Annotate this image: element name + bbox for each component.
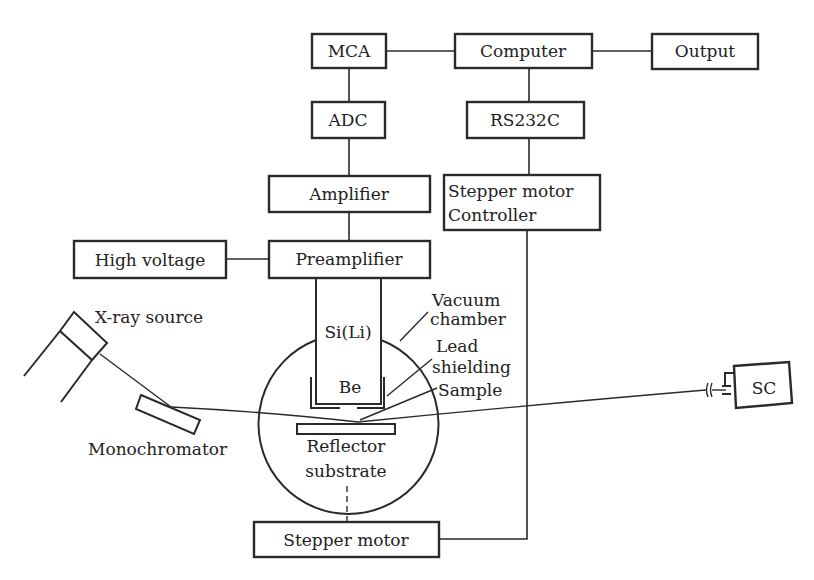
block-stepper-motor: Stepper motor xyxy=(254,522,439,557)
lead-shielding-label-line2: shielding xyxy=(432,357,511,377)
block-output: Output xyxy=(652,34,758,69)
vacuum-chamber-leader xyxy=(400,312,428,341)
high-voltage-label: High voltage xyxy=(95,250,206,270)
beam-source-to-mono xyxy=(100,354,171,407)
block-stepper-motor-controller: Stepper motor Controller xyxy=(444,175,600,230)
xray-tube-leg-1 xyxy=(24,331,60,376)
monochromator-label: Monochromator xyxy=(88,439,228,459)
block-computer: Computer xyxy=(455,34,592,68)
amplifier-label: Amplifier xyxy=(308,184,390,204)
reflector-label-line2: substrate xyxy=(305,461,386,481)
xray-tube-leg-2 xyxy=(61,360,92,402)
block-high-voltage: High voltage xyxy=(74,241,226,278)
monochromator-crystal xyxy=(136,395,200,434)
reflector-plate xyxy=(297,424,395,434)
mca-label: MCA xyxy=(328,41,371,61)
block-preamplifier: Preamplifier xyxy=(269,241,430,278)
block-mca: MCA xyxy=(312,34,386,68)
sample-label: Sample xyxy=(438,380,502,400)
block-adc: ADC xyxy=(312,102,385,138)
beam-break-mark xyxy=(707,383,713,397)
lead-shielding-label-line1: Lead xyxy=(436,336,478,356)
detector-label: Si(Li) xyxy=(324,322,371,342)
adc-label: ADC xyxy=(328,110,368,130)
be-window-label: Be xyxy=(339,377,362,397)
block-amplifier: Amplifier xyxy=(269,176,430,212)
txrf-setup-diagram: MCA Computer Output ADC RS232C Amplifier… xyxy=(0,0,814,580)
reflector-substrate: Reflector substrate xyxy=(297,424,395,481)
controller-label-line2: Controller xyxy=(448,205,537,225)
beam-path xyxy=(100,354,706,422)
preamplifier-label: Preamplifier xyxy=(295,249,403,269)
vacuum-chamber-label-line2: chamber xyxy=(430,309,507,329)
beam-sample-to-sc xyxy=(358,390,706,422)
controller-label-line1: Stepper motor xyxy=(448,181,574,201)
sc-label: SC xyxy=(752,378,777,398)
reflector-label-line1: Reflector xyxy=(307,436,387,456)
computer-label: Computer xyxy=(480,41,567,61)
vacuum-chamber-label-line1: Vacuum xyxy=(431,290,500,310)
xray-source: X-ray source xyxy=(24,307,203,402)
sili-detector: Si(Li) Be xyxy=(316,278,381,404)
xray-source-label: X-ray source xyxy=(95,307,203,327)
monochromator: Monochromator xyxy=(88,395,228,459)
output-label: Output xyxy=(675,41,736,61)
rs232c-label: RS232C xyxy=(490,110,560,130)
scintillation-counter: SC xyxy=(707,362,793,408)
block-rs232c: RS232C xyxy=(467,102,584,138)
stepper-motor-label: Stepper motor xyxy=(283,530,409,550)
